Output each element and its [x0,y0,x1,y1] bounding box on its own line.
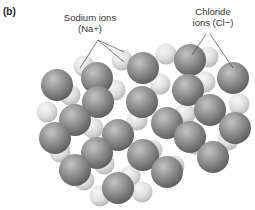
chloride-ion [174,44,206,76]
chloride-label-line1: Chloride [182,6,244,17]
sodium-label-line1: Sodium ions [45,12,135,23]
chloride-ion [217,62,249,94]
chloride-ion [102,172,134,204]
chloride-ion [219,112,251,144]
sodium-label-line2: (Na+) [45,23,135,34]
sodium-ions-label: Sodium ions (Na+) [45,12,135,34]
chloride-ion [41,69,73,101]
chloride-ion [59,154,91,186]
chloride-ion [127,52,159,84]
chloride-ion [39,122,71,154]
sodium-ion [37,102,58,123]
chloride-ion [151,156,183,188]
chloride-label-line2: ions (Cl−) [182,17,244,28]
chloride-ion [126,86,158,118]
panel-label: (b) [3,6,16,17]
chloride-ion [197,141,229,173]
sodium-ion [156,44,177,65]
chloride-ions-label: Chloride ions (Cl−) [182,6,244,28]
sodium-ion [229,94,250,115]
sodium-ion [132,182,153,203]
